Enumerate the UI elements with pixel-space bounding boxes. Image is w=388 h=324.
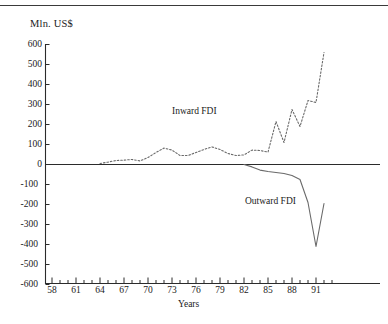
x-tick-marks xyxy=(52,278,332,284)
plot-area xyxy=(0,0,388,324)
series-line-inward xyxy=(100,53,324,164)
axis-lines xyxy=(46,44,381,284)
y-tick-marks xyxy=(46,45,50,285)
series-line-outward xyxy=(244,165,324,247)
chart-figure: Mln. US$ 600 500 400 300 200 100 0 -100 … xyxy=(0,0,388,324)
